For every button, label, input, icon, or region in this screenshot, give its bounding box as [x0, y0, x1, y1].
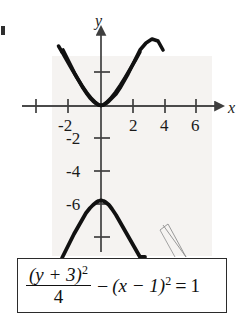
- fraction-term: (y + 3)2 4: [26, 265, 91, 307]
- minus-operator: −: [97, 276, 108, 296]
- upper-branch-plot: [63, 39, 163, 106]
- second-term: (x − 1)2: [112, 276, 171, 295]
- second-term-text: (x − 1): [112, 275, 165, 296]
- equals-sign: =: [175, 276, 186, 296]
- numerator-exponent: 2: [82, 262, 88, 276]
- right-side-value: 1: [190, 276, 200, 295]
- lower-branch-plot: [62, 200, 145, 258]
- fraction-denominator: 4: [51, 286, 67, 306]
- numerator-text: (y + 3): [29, 264, 82, 285]
- second-term-exponent: 2: [165, 274, 171, 288]
- equation-expression: (y + 3)2 4 − (x − 1)2 = 1: [24, 265, 200, 307]
- equation-callout-box: (y + 3)2 4 − (x − 1)2 = 1: [17, 258, 227, 313]
- figure-page: x y -2 2 4 6 -2 -4 -6: [0, 0, 246, 316]
- fraction-numerator: (y + 3)2: [26, 265, 91, 285]
